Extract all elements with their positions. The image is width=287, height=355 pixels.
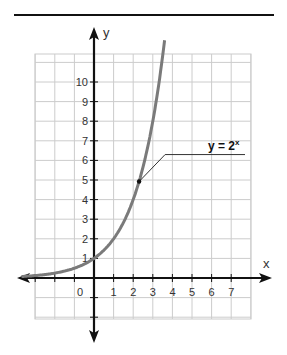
x-axis-label: x [263, 256, 270, 271]
y-tick-label: 5 [82, 174, 88, 186]
x-tick-label: 6 [209, 286, 215, 298]
y-tick-label: 9 [82, 96, 88, 108]
y-tick-label: 2 [82, 233, 88, 245]
y-axis-label: y [103, 25, 110, 40]
equation-label: y = 2x [208, 138, 240, 153]
y-tick-label: 4 [82, 194, 88, 206]
y-tick-label: 8 [82, 115, 88, 127]
grid [35, 54, 251, 319]
x-tick-label: 0 [77, 286, 83, 298]
annotated-point [137, 179, 141, 183]
y-tick-label: 3 [82, 213, 88, 225]
x-tick-label: 5 [189, 286, 195, 298]
x-tick-label: 7 [228, 286, 234, 298]
y-tick-label: 10 [76, 76, 88, 88]
y-tick-label: 6 [82, 154, 88, 166]
exponential-graph: 0123456712345678910 y = 2x x y [0, 0, 287, 355]
x-tick-label: 3 [150, 286, 156, 298]
y-tick-label: 7 [82, 135, 88, 147]
x-tick-label: 4 [169, 286, 175, 298]
x-tick-label: 2 [130, 286, 136, 298]
x-tick-label: 1 [111, 286, 117, 298]
